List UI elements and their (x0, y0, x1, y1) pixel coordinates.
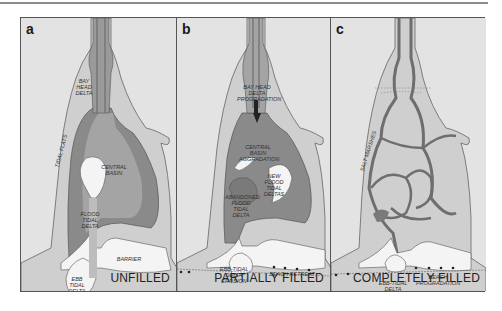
panel-a-unfilled: a BAY HEAD DELTA TIDAL FLATS CENTRAL BAS… (21, 18, 177, 291)
label-flood-tidal-delta: FLOOD TIDAL DELTA (78, 211, 102, 229)
panel-caption: COMPLETELY FILLED (353, 271, 480, 285)
label-central-basin: CENTRAL BASIN (99, 164, 129, 176)
panel-letter: c (336, 21, 344, 37)
panel-b-partially-filled: b BAY HEAD DELTA PROGRADATION CENTRAL BA… (177, 18, 331, 291)
panel-caption: UNFILLED (110, 271, 170, 285)
panel-c-completely-filled: c SALT MARSHES EBB-TIDAL DELTA EROSION B… (331, 18, 486, 291)
panel-a-diagram (21, 18, 177, 291)
panel-c-diagram (331, 18, 486, 291)
label-barrier: BARRIER (109, 256, 149, 262)
panel-letter: b (182, 21, 191, 37)
estuary-fill-figure: a BAY HEAD DELTA TIDAL FLATS CENTRAL BAS… (20, 17, 485, 292)
top-rule (0, 2, 488, 4)
label-central-basin-aggradation: CENTRAL BASIN AGGRADATION (239, 144, 277, 162)
label-new-flood-tidal-deltas: NEW FLOOD TIDAL DELTAS (261, 173, 287, 197)
label-bay-head-delta-progradation: BAY HEAD DELTA PROGRADATION (237, 84, 277, 102)
label-ebb-tidal-delta: EBB TIDAL DELTA (66, 276, 88, 291)
label-abandoned-flood-tidal-delta: ABANDONED FLOOD TIDAL DELTA (225, 194, 257, 218)
panel-caption: PARTIALLY FILLED (214, 271, 324, 285)
label-bay-head-delta: BAY HEAD DELTA (72, 78, 96, 96)
panel-letter: a (26, 21, 34, 37)
